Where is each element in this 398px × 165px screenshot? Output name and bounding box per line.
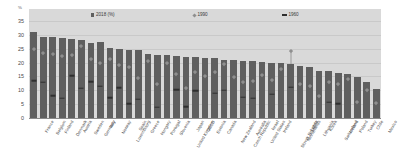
bar-group[interactable] [211, 21, 218, 118]
bar-group[interactable] [183, 21, 190, 118]
bar-group[interactable] [30, 21, 37, 118]
marker-1960[interactable] [221, 89, 226, 90]
bar-group[interactable] [126, 21, 133, 118]
marker-1960[interactable] [288, 86, 293, 87]
marker-1960[interactable] [41, 81, 46, 82]
bar-2018[interactable] [40, 37, 47, 118]
marker-1960[interactable] [241, 96, 246, 97]
bar-2018[interactable] [49, 37, 56, 118]
y-tick-label: 35 [18, 18, 24, 24]
bar-group[interactable] [373, 21, 380, 118]
marker-1960[interactable] [98, 85, 103, 86]
bar-2018[interactable] [240, 61, 247, 118]
bar-2018[interactable] [173, 56, 180, 118]
bar-group[interactable] [335, 21, 342, 118]
bar-2018[interactable] [354, 77, 361, 118]
bar-group[interactable] [306, 21, 313, 118]
legend-entry[interactable]: 1990 [193, 13, 208, 18]
marker-1960[interactable] [212, 93, 217, 94]
bar-group[interactable] [202, 21, 209, 118]
bar-group[interactable] [240, 21, 247, 118]
x-tick-label: Italy [109, 120, 117, 129]
bar-group[interactable] [107, 21, 114, 118]
bar-group[interactable] [173, 21, 180, 118]
bar-group[interactable] [316, 21, 323, 118]
bar-group[interactable] [40, 21, 47, 118]
bar-group[interactable] [363, 21, 370, 118]
bar-group[interactable] [135, 21, 142, 118]
bar-group[interactable] [278, 21, 285, 118]
bar-group[interactable] [49, 21, 56, 118]
legend-entry[interactable]: 1960 [282, 13, 299, 18]
bar-group[interactable] [325, 21, 332, 118]
bar-2018[interactable] [268, 63, 275, 118]
x-tick-label: Chile [376, 120, 385, 131]
marker-1960[interactable] [193, 90, 198, 91]
bar-2018[interactable] [249, 61, 256, 118]
x-tick-label: Mexico [387, 120, 398, 134]
marker-1960[interactable] [269, 93, 274, 94]
legend-entry[interactable]: 2018 (%) [91, 13, 115, 18]
legend-label: 1990 [197, 13, 207, 18]
bar-group[interactable] [154, 21, 161, 118]
bar-group[interactable] [192, 21, 199, 118]
marker-1960[interactable] [79, 87, 84, 88]
bar-group[interactable] [116, 21, 123, 118]
bar-2018[interactable] [259, 62, 266, 118]
marker-1960[interactable] [117, 87, 122, 88]
marker-1960[interactable] [174, 89, 179, 90]
bar-group[interactable] [59, 21, 66, 118]
marker-1960[interactable] [155, 107, 160, 108]
bar-2018[interactable] [154, 55, 161, 118]
marker-1960[interactable] [336, 103, 341, 104]
marker-1960[interactable] [126, 103, 131, 104]
marker-1960[interactable] [60, 97, 65, 98]
bar-group[interactable] [287, 21, 294, 118]
marker-1960[interactable] [250, 98, 255, 99]
bar-2018[interactable] [278, 63, 285, 118]
bar-2018[interactable] [30, 32, 37, 118]
bar-2018[interactable] [78, 40, 85, 118]
bar-group[interactable] [68, 21, 75, 118]
marker-1960[interactable] [88, 81, 93, 82]
marker-1960[interactable] [107, 97, 112, 98]
bar-group[interactable] [78, 21, 85, 118]
marker-1960[interactable] [136, 98, 141, 99]
y-tick-label: 20 [18, 60, 24, 66]
bar-2018[interactable] [135, 50, 142, 118]
bar-2018[interactable] [68, 39, 75, 118]
bar-group[interactable] [88, 21, 95, 118]
bar-group[interactable] [268, 21, 275, 118]
bar-2018[interactable] [116, 49, 123, 118]
marker-1960[interactable] [326, 102, 331, 103]
y-tick-label: 10 [18, 87, 24, 93]
bar-group[interactable] [221, 21, 228, 118]
marker-1960[interactable] [183, 106, 188, 107]
bar-2018[interactable] [335, 73, 342, 118]
bar-2018[interactable] [126, 50, 133, 118]
bar-group[interactable] [97, 21, 104, 118]
bar-2018[interactable] [211, 58, 218, 118]
bar-2018[interactable] [325, 71, 332, 118]
bar-group[interactable] [164, 21, 171, 118]
marker-1960[interactable] [31, 80, 36, 81]
bar-2018[interactable] [192, 57, 199, 118]
bar-2018[interactable] [59, 38, 66, 118]
bar-2018[interactable] [287, 64, 294, 118]
bar-group[interactable] [230, 21, 237, 118]
legend-dash-icon [282, 14, 287, 15]
bar-group[interactable] [344, 21, 351, 118]
bar-group[interactable] [354, 21, 361, 118]
bar-2018[interactable] [306, 67, 313, 118]
bar-2018[interactable] [202, 58, 209, 118]
bar-group[interactable] [297, 21, 304, 118]
bar-2018[interactable] [97, 42, 104, 118]
marker-1960[interactable] [50, 95, 55, 96]
bar-group[interactable] [249, 21, 256, 118]
bar-group[interactable] [259, 21, 266, 118]
bar-2018[interactable] [230, 60, 237, 118]
bar-group[interactable] [145, 21, 152, 118]
marker-1960[interactable] [69, 75, 74, 76]
bar-2018[interactable] [297, 66, 304, 118]
bar-2018[interactable] [145, 54, 152, 118]
